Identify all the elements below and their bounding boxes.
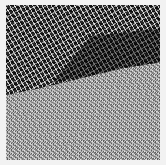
- photo-frame: [6, 5, 160, 160]
